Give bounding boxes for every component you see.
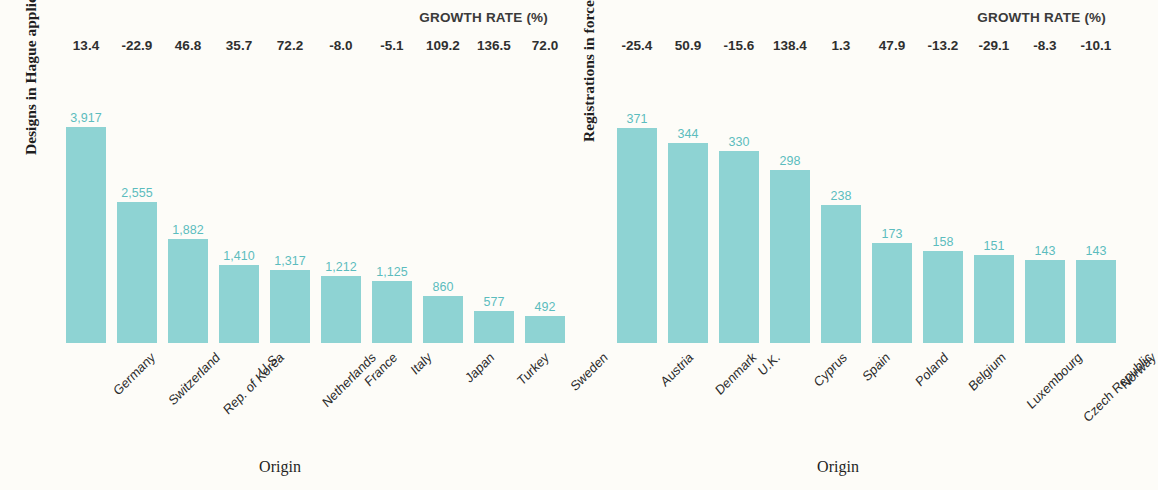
bar-slot: 371 <box>612 70 663 343</box>
bar-value-label: 298 <box>765 154 816 168</box>
growth-rate-value: -5.1 <box>367 38 418 53</box>
bar <box>321 276 361 343</box>
bar <box>219 265 259 343</box>
bar-value-label: 158 <box>918 235 969 249</box>
bar <box>423 296 463 343</box>
bar-slot: 238 <box>816 70 867 343</box>
bar-slot: 1,882 <box>163 70 214 343</box>
bar-slot: 1,410 <box>214 70 265 343</box>
bar-slot: 143 <box>1020 70 1071 343</box>
bar-value-label: 173 <box>867 227 918 241</box>
bar-slot: 298 <box>765 70 816 343</box>
bar <box>168 239 208 343</box>
growth-rate-header-right: GROWTH RATE (%) <box>977 10 1106 25</box>
y-axis-title-left: Designs in Hague applications <box>22 0 40 155</box>
bar-slot: 1,317 <box>265 70 316 343</box>
growth-rate-value: 138.4 <box>765 38 816 53</box>
bar-value-label: 1,125 <box>367 265 418 279</box>
category-label: Italy <box>407 349 433 378</box>
bar <box>474 311 514 343</box>
category-axis-left: GermanySwitzerlandRep. of KoreaU.S.Nethe… <box>0 349 560 449</box>
bar-value-label: 330 <box>714 135 765 149</box>
bar-value-label: 1,410 <box>214 249 265 263</box>
bar-slot: 860 <box>418 70 469 343</box>
category-label: Belgium <box>965 349 1008 394</box>
bar-slot: 173 <box>867 70 918 343</box>
bar-value-label: 151 <box>969 239 1020 253</box>
chart-panel-right: GROWTH RATE (%) -25.450.9-15.6138.41.347… <box>558 0 1118 490</box>
bar-value-label: 143 <box>1071 244 1122 258</box>
bar-value-label: 860 <box>418 280 469 294</box>
category-label: Poland <box>912 349 950 390</box>
growth-rate-value: -29.1 <box>969 38 1020 53</box>
growth-rate-value: -8.3 <box>1020 38 1071 53</box>
growth-rate-value: -15.6 <box>714 38 765 53</box>
bar-value-label: 3,917 <box>61 111 112 125</box>
bar-value-label: 1,882 <box>163 223 214 237</box>
category-label: Austria <box>657 349 695 390</box>
category-label: Germany <box>110 349 157 399</box>
bar-value-label: 577 <box>469 295 520 309</box>
bar-value-label: 238 <box>816 189 867 203</box>
bar <box>974 255 1014 343</box>
bar <box>719 151 759 343</box>
bar-value-label: 1,212 <box>316 260 367 274</box>
bar-slot: 1,212 <box>316 70 367 343</box>
bar-slot: 3,917 <box>61 70 112 343</box>
bar <box>270 270 310 343</box>
growth-rate-value: -10.1 <box>1071 38 1122 53</box>
bar <box>1025 260 1065 343</box>
bar-value-label: 371 <box>612 112 663 126</box>
bar <box>372 281 412 343</box>
bar-slot: 330 <box>714 70 765 343</box>
growth-rate-value: 13.4 <box>61 38 112 53</box>
y-axis-title-right: Registrations in force <box>580 0 598 142</box>
growth-rate-value: 47.9 <box>867 38 918 53</box>
bar <box>770 170 810 343</box>
bar-slot: 2,555 <box>112 70 163 343</box>
category-label: U.K. <box>755 349 782 379</box>
growth-rate-value: 136.5 <box>469 38 520 53</box>
category-label: Japan <box>462 349 496 386</box>
growth-rate-value: 1.3 <box>816 38 867 53</box>
growth-rate-value: 72.2 <box>265 38 316 53</box>
x-axis-title-left: Origin <box>0 458 560 476</box>
category-label: Switzerland <box>165 349 222 408</box>
growth-rate-header-left: GROWTH RATE (%) <box>419 10 548 25</box>
bar <box>117 202 157 343</box>
bar-slot: 344 <box>663 70 714 343</box>
bar <box>617 128 657 344</box>
bar <box>66 127 106 343</box>
growth-rate-value: -13.2 <box>918 38 969 53</box>
bar-value-label: 143 <box>1020 244 1071 258</box>
bar-slot: 1,125 <box>367 70 418 343</box>
bar <box>821 205 861 343</box>
bar-slot: 143 <box>1071 70 1122 343</box>
bar-slot: 151 <box>969 70 1020 343</box>
x-axis-title-right: Origin <box>558 458 1118 476</box>
growth-rate-value: -22.9 <box>112 38 163 53</box>
growth-rate-value: 35.7 <box>214 38 265 53</box>
chart-panel-left: GROWTH RATE (%) 13.4-22.946.835.772.2-8.… <box>0 0 560 490</box>
growth-rate-value: 46.8 <box>163 38 214 53</box>
category-label: Spain <box>859 349 892 384</box>
bar <box>923 251 963 343</box>
category-label: Turkey <box>514 349 551 389</box>
category-axis-right: AustriaDenmarkU.K.CyprusSpainPolandBelgi… <box>558 349 1118 449</box>
category-label: Cyprus <box>811 349 849 390</box>
bar-slot: 577 <box>469 70 520 343</box>
growth-rate-value: -25.4 <box>612 38 663 53</box>
bar-slot: 158 <box>918 70 969 343</box>
category-label: Denmark <box>712 349 759 398</box>
bar-value-label: 1,317 <box>265 254 316 268</box>
growth-rate-value: -8.0 <box>316 38 367 53</box>
bar-value-label: 2,555 <box>112 186 163 200</box>
growth-rate-value: 109.2 <box>418 38 469 53</box>
category-label: Luxembourg <box>1024 349 1084 412</box>
bar <box>1076 260 1116 343</box>
growth-rate-value: 50.9 <box>663 38 714 53</box>
bar <box>668 143 708 343</box>
bar <box>872 243 912 343</box>
bar-value-label: 344 <box>663 127 714 141</box>
